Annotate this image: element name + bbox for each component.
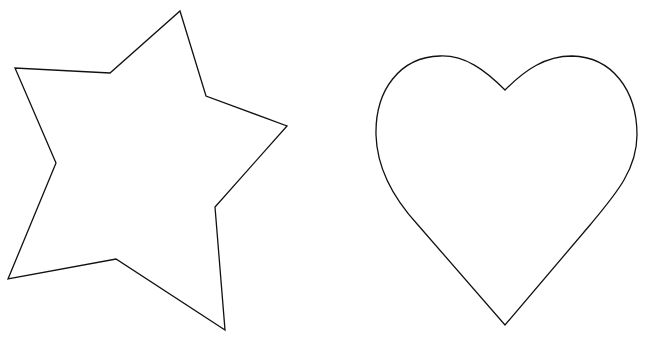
heart-shape [376,56,637,325]
star-shape [8,11,287,330]
shapes-canvas [0,0,647,337]
